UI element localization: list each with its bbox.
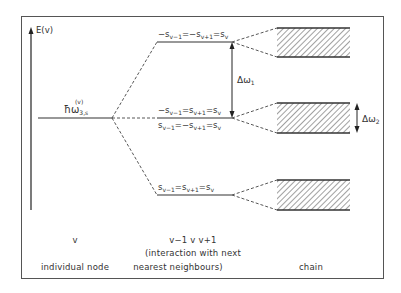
level-label-lower: sv−1=sv+1=sv [158,182,214,193]
arrow-down-icon [355,126,360,133]
svg-text:Δω2: Δω2 [362,114,380,125]
axis-label: E(v) [36,25,53,35]
svg-text:ħω3,s: ħω3,s [64,104,88,116]
arrow-up-icon [355,103,360,110]
neighbours-symbol: v−1 v v+1 [169,235,216,245]
energy-level-diagram: E(v) ħω3,s (v) −sv−1=−sv+1=sv −sv−1=sv+1… [0,0,401,293]
node-level-label: ħω [64,104,79,115]
split-levels [157,42,232,195]
band-middle [277,103,350,133]
neighbours-caption-line2: nearest neighbours) [133,262,223,272]
level-label-upper: −sv−1=−sv+1=sv [158,29,229,40]
delta-omega-1-arrow: Δω1 [230,42,255,118]
individual-node-level: ħω3,s (v) [38,98,112,118]
node-symbol: v [72,235,77,245]
axis-arrow-icon [29,27,34,34]
neighbours-caption-line1: (interaction with next [145,248,241,258]
svg-text:Δω1: Δω1 [237,75,255,86]
splitting-lines [112,42,157,195]
delta-omega-2-arrow: Δω2 [355,103,380,133]
band-connectors [232,28,277,210]
band-lower [277,180,350,210]
node-caption: individual node [41,262,109,272]
band-upper [277,28,350,57]
chain-caption: chain [299,262,323,272]
delta-omega-2-label: Δω [362,114,376,124]
delta-omega-1-label: Δω [237,75,251,85]
level-label-middle-top: −sv−1=sv+1=sv [158,105,222,116]
svg-text:(v): (v) [75,98,83,105]
level-label-middle-bottom: sv−1=−sv+1=sv [158,120,222,131]
